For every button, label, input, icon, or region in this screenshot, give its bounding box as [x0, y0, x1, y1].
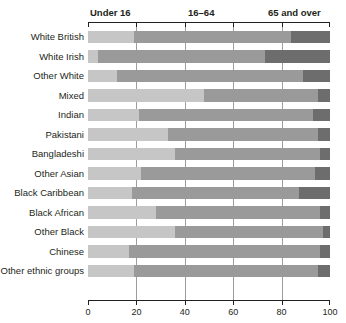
segment-heading-16-64: 16–64 [188, 7, 214, 19]
stacked-bar-chart: Under 16 16–64 65 and over White British… [0, 0, 346, 323]
category-label: Chinese [0, 242, 84, 262]
bar-segment-16-64 [129, 245, 320, 258]
stacked-bar [88, 148, 330, 161]
bar-segment-16-64 [134, 265, 318, 278]
bar-segment-under-16 [88, 167, 141, 180]
bar-segment-65-and-over [303, 70, 330, 83]
value-axis-tick-labels: 020406080100 [88, 306, 330, 319]
bar-row [88, 105, 330, 125]
bar-segment-65-and-over [318, 128, 330, 141]
bar-segment-16-64 [141, 167, 315, 180]
bar-segment-16-64 [175, 226, 323, 239]
stacked-bar [88, 128, 330, 141]
category-label: Bangladeshi [0, 144, 84, 164]
bar-rows [88, 27, 330, 300]
bar-segment-65-and-over [313, 109, 330, 122]
axis-tick-label: 80 [277, 306, 287, 318]
category-label: Other White [0, 66, 84, 86]
bar-segment-16-64 [204, 89, 318, 102]
bar-segment-65-and-over [320, 148, 330, 161]
bar-segment-65-and-over [320, 206, 330, 219]
bar-row [88, 144, 330, 164]
bar-row [88, 222, 330, 242]
bar-row [88, 261, 330, 281]
bar-segment-under-16 [88, 226, 175, 239]
bar-segment-under-16 [88, 70, 117, 83]
category-label: Indian [0, 105, 84, 125]
segment-headings: Under 16 16–64 65 and over [0, 7, 346, 21]
bar-segment-16-64 [134, 31, 291, 44]
bar-segment-65-and-over [265, 50, 330, 63]
stacked-bar [88, 167, 330, 180]
axis-tick [185, 301, 186, 305]
bar-segment-under-16 [88, 265, 134, 278]
bar-segment-65-and-over [318, 89, 330, 102]
axis-tick [233, 301, 234, 305]
axis-tick [88, 301, 89, 305]
category-label: White British [0, 27, 84, 47]
bar-segment-16-64 [132, 187, 299, 200]
bar-segment-under-16 [88, 109, 139, 122]
category-label: Other Black [0, 222, 84, 242]
stacked-bar [88, 109, 330, 122]
bar-row [88, 66, 330, 86]
stacked-bar [88, 31, 330, 44]
axis-tick-label: 20 [131, 306, 141, 318]
bar-row [88, 86, 330, 106]
bar-segment-under-16 [88, 245, 129, 258]
stacked-bar [88, 226, 330, 239]
bar-row [88, 164, 330, 184]
bar-row [88, 27, 330, 47]
axis-tick-label: 0 [85, 306, 90, 318]
bar-segment-65-and-over [291, 31, 330, 44]
category-label: Other ethnic groups [0, 261, 84, 281]
category-axis-labels: White BritishWhite IrishOther WhiteMixed… [0, 27, 84, 300]
bar-segment-under-16 [88, 128, 168, 141]
bar-segment-65-and-over [315, 167, 330, 180]
bar-segment-under-16 [88, 187, 132, 200]
axis-tick [329, 301, 330, 305]
axis-tick-label: 40 [180, 306, 190, 318]
bar-segment-16-64 [98, 50, 265, 63]
category-label: Mixed [0, 86, 84, 106]
bar-row [88, 183, 330, 203]
stacked-bar [88, 187, 330, 200]
stacked-bar [88, 50, 330, 63]
plot-area [88, 22, 330, 300]
category-label: Pakistani [0, 125, 84, 145]
segment-heading-65-and-over: 65 and over [268, 7, 321, 19]
axis-tick [282, 301, 283, 305]
stacked-bar [88, 245, 330, 258]
bar-segment-16-64 [175, 148, 320, 161]
axis-tick-label: 100 [322, 306, 337, 318]
value-axis-ticks [88, 301, 330, 305]
bar-segment-65-and-over [299, 187, 330, 200]
bar-segment-16-64 [156, 206, 321, 219]
segment-heading-under-16: Under 16 [90, 7, 131, 19]
bar-segment-under-16 [88, 148, 175, 161]
stacked-bar [88, 89, 330, 102]
axis-tick-label: 60 [228, 306, 238, 318]
category-label: Black Caribbean [0, 183, 84, 203]
bar-segment-65-and-over [323, 226, 330, 239]
bar-segment-16-64 [168, 128, 318, 141]
bar-row [88, 203, 330, 223]
category-label: Black African [0, 203, 84, 223]
bar-row [88, 125, 330, 145]
bar-segment-under-16 [88, 206, 156, 219]
stacked-bar [88, 206, 330, 219]
bar-segment-under-16 [88, 31, 134, 44]
category-label: Other Asian [0, 164, 84, 184]
bar-row [88, 47, 330, 67]
stacked-bar [88, 265, 330, 278]
bar-segment-under-16 [88, 50, 98, 63]
bar-segment-under-16 [88, 89, 204, 102]
bar-segment-16-64 [117, 70, 303, 83]
axis-tick [136, 301, 137, 305]
category-label: White Irish [0, 47, 84, 67]
bar-segment-65-and-over [318, 265, 330, 278]
bar-segment-16-64 [139, 109, 313, 122]
stacked-bar [88, 70, 330, 83]
bar-segment-65-and-over [320, 245, 330, 258]
bar-row [88, 242, 330, 262]
